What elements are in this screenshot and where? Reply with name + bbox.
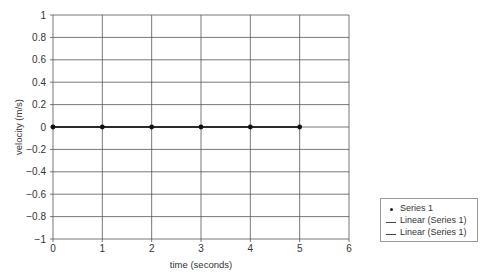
- x-tick-label: 4: [248, 243, 254, 254]
- legend-item-series-1: Series 1: [385, 202, 477, 214]
- data-point: [199, 125, 204, 130]
- y-tick-label: −0.2: [26, 144, 46, 155]
- x-tick-label: 1: [100, 243, 106, 254]
- y-tick-label: 0.6: [32, 54, 46, 65]
- y-tick-label: −0.8: [26, 211, 46, 222]
- data-point: [248, 125, 253, 130]
- y-tick-label: 0.8: [32, 32, 46, 43]
- x-tick-label: 3: [198, 243, 204, 254]
- y-tick-label: 1: [40, 10, 46, 21]
- data-point: [149, 125, 154, 130]
- legend-label: Linear (Series 1): [400, 226, 467, 238]
- marker-dot-icon: [390, 208, 393, 211]
- y-tick-label: 0.2: [32, 99, 46, 110]
- y-axis-ticks: 10.80.60.40.20−0.2−0.4−0.6−0.8−1: [26, 10, 46, 245]
- chart-legend: Series 1 Linear (Series 1) Linear (Serie…: [380, 198, 478, 242]
- data-point: [100, 125, 105, 130]
- legend-label: Linear (Series 1): [400, 214, 467, 226]
- legend-label: Series 1: [400, 202, 433, 214]
- x-axis-ticks: 0123456: [50, 243, 352, 254]
- y-tick-label: −0.4: [26, 166, 46, 177]
- legend-item-linear-2: Linear (Series 1): [385, 226, 477, 238]
- y-tick-label: −1: [35, 234, 47, 245]
- data-point: [297, 125, 302, 130]
- x-axis-label: time (seconds): [170, 259, 232, 270]
- data-point: [51, 125, 56, 130]
- y-tick-label: 0: [40, 122, 46, 133]
- legend-item-linear-1: Linear (Series 1): [385, 214, 477, 226]
- line-swatch-icon: [386, 222, 396, 223]
- x-tick-label: 2: [149, 243, 155, 254]
- x-tick-label: 5: [297, 243, 303, 254]
- x-tick-label: 0: [50, 243, 56, 254]
- y-axis-label: velocity (m/s): [13, 99, 24, 155]
- data-series: [51, 125, 302, 130]
- x-tick-label: 6: [346, 243, 352, 254]
- y-tick-label: −0.6: [26, 189, 46, 200]
- y-tick-label: 0.4: [32, 77, 46, 88]
- line-swatch-icon: [386, 234, 396, 235]
